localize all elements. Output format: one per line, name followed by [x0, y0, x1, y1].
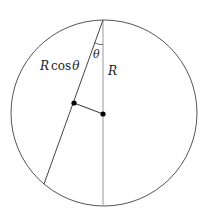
- chord-label-cos: cos: [51, 59, 71, 73]
- chord-midpoint-dot: [71, 100, 76, 105]
- angle-label: θ: [93, 48, 100, 61]
- center-dot: [100, 111, 105, 116]
- chord-label-theta: θ: [72, 59, 80, 73]
- chord-length-label: Rcosθ: [39, 59, 80, 73]
- circle-chord-diagram: Rcosθ θ R: [0, 0, 205, 217]
- chord-label-R: R: [39, 59, 49, 73]
- radius-label: R: [107, 64, 117, 78]
- perpendicular-segment: [74, 103, 103, 114]
- angle-arc: [95, 43, 103, 45]
